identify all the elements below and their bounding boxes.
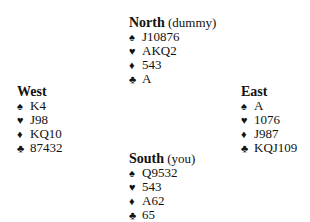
diamonds-cards: KQ10 (30, 126, 62, 141)
spade-icon: ♠ (129, 166, 142, 180)
hearts-row: ♥J98 (17, 113, 63, 127)
diamond-icon: ♦ (17, 127, 30, 141)
player-role: (you) (164, 151, 195, 166)
hearts-cards: J98 (30, 112, 48, 127)
diamond-icon: ♦ (129, 58, 142, 72)
player-name: North (129, 15, 165, 30)
diamonds-cards: A62 (142, 193, 164, 208)
clubs-cards: 87432 (30, 140, 63, 155)
east-title: East (241, 85, 297, 99)
diamonds-cards: J987 (254, 126, 279, 141)
hearts-row: ♥543 (129, 180, 195, 194)
south-title: South (you) (129, 152, 195, 166)
clubs-row: ♣A (129, 72, 216, 86)
diamonds-row: ♦A62 (129, 194, 195, 208)
east-hand: East ♠A ♥1076 ♦J987 ♣KQJ109 (241, 85, 297, 155)
heart-icon: ♥ (241, 113, 254, 127)
club-icon: ♣ (129, 208, 142, 222)
player-name: South (129, 151, 164, 166)
clubs-row: ♣65 (129, 208, 195, 222)
clubs-row: ♣KQJ109 (241, 141, 297, 155)
spade-icon: ♠ (241, 99, 254, 113)
hearts-row: ♥AKQ2 (129, 44, 216, 58)
spades-cards: Q9532 (142, 165, 177, 180)
heart-icon: ♥ (129, 180, 142, 194)
diamond-icon: ♦ (129, 194, 142, 208)
hearts-cards: 543 (142, 179, 162, 194)
spades-row: ♠Q9532 (129, 166, 195, 180)
heart-icon: ♥ (129, 44, 142, 58)
clubs-cards: KQJ109 (254, 140, 297, 155)
club-icon: ♣ (129, 72, 142, 86)
player-role: (dummy) (165, 15, 217, 30)
diamonds-row: ♦KQ10 (17, 127, 63, 141)
spades-cards: K4 (30, 98, 46, 113)
north-title: North (dummy) (129, 16, 216, 30)
west-hand: West ♠K4 ♥J98 ♦KQ10 ♣87432 (17, 85, 63, 155)
club-icon: ♣ (241, 141, 254, 155)
spades-cards: A (254, 98, 263, 113)
west-title: West (17, 85, 63, 99)
diamonds-cards: 543 (142, 57, 162, 72)
spade-icon: ♠ (129, 30, 142, 44)
spades-row: ♠K4 (17, 99, 63, 113)
hearts-cards: AKQ2 (142, 43, 177, 58)
diamond-icon: ♦ (241, 127, 254, 141)
clubs-cards: 65 (142, 207, 155, 222)
north-hand: North (dummy) ♠J10876 ♥AKQ2 ♦543 ♣A (129, 16, 216, 86)
spades-cards: J10876 (142, 29, 180, 44)
hearts-row: ♥1076 (241, 113, 297, 127)
spade-icon: ♠ (17, 99, 30, 113)
south-hand: South (you) ♠Q9532 ♥543 ♦A62 ♣65 (129, 152, 195, 222)
spades-row: ♠J10876 (129, 30, 216, 44)
clubs-cards: A (142, 71, 151, 86)
club-icon: ♣ (17, 141, 30, 155)
diamonds-row: ♦J987 (241, 127, 297, 141)
heart-icon: ♥ (17, 113, 30, 127)
hearts-cards: 1076 (254, 112, 280, 127)
spades-row: ♠A (241, 99, 297, 113)
player-name: East (241, 84, 267, 99)
diamonds-row: ♦543 (129, 58, 216, 72)
player-name: West (17, 84, 47, 99)
clubs-row: ♣87432 (17, 141, 63, 155)
